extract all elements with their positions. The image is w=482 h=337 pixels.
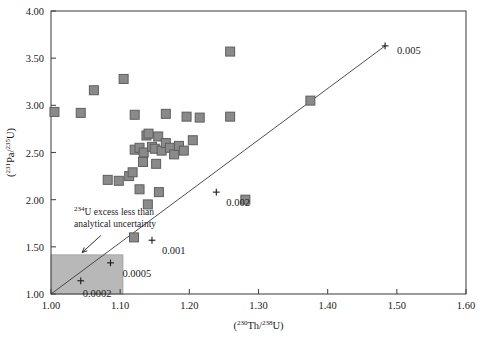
data-point bbox=[144, 129, 153, 138]
x-tick-label: 1.60 bbox=[457, 300, 475, 311]
y-tick-label: 1.50 bbox=[26, 242, 44, 253]
data-point bbox=[114, 176, 123, 185]
data-point bbox=[139, 148, 148, 157]
x-tick-label: 1.30 bbox=[249, 300, 267, 311]
y-axis-title: (231Pa/235U) bbox=[4, 128, 17, 178]
isochron-label: 0.0005 bbox=[122, 268, 151, 279]
isochron-label: 0.005 bbox=[397, 45, 421, 56]
y-tick-label: 1.00 bbox=[26, 289, 44, 300]
annotation-line-2: analytical uncertainty bbox=[74, 219, 156, 229]
data-point bbox=[188, 136, 197, 145]
annotation-line-1: 234U excess less than bbox=[74, 205, 154, 217]
data-point bbox=[130, 110, 139, 119]
y-tick-label: 3.00 bbox=[26, 100, 44, 111]
data-point bbox=[135, 185, 144, 194]
data-point bbox=[152, 159, 161, 168]
data-point bbox=[130, 233, 139, 242]
scatter-plot: 0.00020.00050.0010.0020.005 1.001.101.20… bbox=[0, 0, 482, 337]
x-tick-label: 1.50 bbox=[388, 300, 406, 311]
isochron-label: 0.001 bbox=[162, 245, 186, 256]
data-point bbox=[161, 109, 170, 118]
x-tick-label: 1.00 bbox=[42, 300, 60, 311]
x-tick-label: 1.40 bbox=[318, 300, 336, 311]
y-tick-label: 4.00 bbox=[26, 6, 44, 17]
data-point bbox=[195, 113, 204, 122]
isochron-label: 0.002 bbox=[226, 197, 250, 208]
y-tick-label: 2.50 bbox=[26, 148, 44, 159]
data-point bbox=[226, 47, 235, 56]
x-tick-label: 1.20 bbox=[180, 300, 198, 311]
chart-container: 0.00020.00050.0010.0020.005 1.001.101.20… bbox=[0, 0, 482, 337]
isochron-layer bbox=[51, 43, 388, 294]
x-tick-label: 1.10 bbox=[111, 300, 129, 311]
data-point bbox=[306, 96, 315, 105]
x-axis-title: (230Th/238U) bbox=[233, 319, 284, 332]
y-tick-label: 3.50 bbox=[26, 53, 44, 64]
data-point bbox=[182, 112, 191, 121]
data-point bbox=[154, 188, 163, 197]
y-tick-label: 2.00 bbox=[26, 195, 44, 206]
data-point bbox=[128, 168, 137, 177]
isochron-line bbox=[51, 46, 385, 294]
annotation-arrow bbox=[82, 236, 101, 253]
data-point bbox=[119, 74, 128, 83]
data-point bbox=[89, 86, 98, 95]
data-point bbox=[50, 107, 59, 116]
data-point bbox=[170, 150, 179, 159]
data-point bbox=[138, 157, 147, 166]
data-point bbox=[103, 175, 112, 184]
data-point bbox=[179, 146, 188, 155]
data-point bbox=[226, 112, 235, 121]
data-point bbox=[76, 108, 85, 117]
isochron-label: 0.0002 bbox=[83, 288, 112, 299]
annotation-layer: 234U excess less thananalytical uncertai… bbox=[74, 205, 156, 252]
